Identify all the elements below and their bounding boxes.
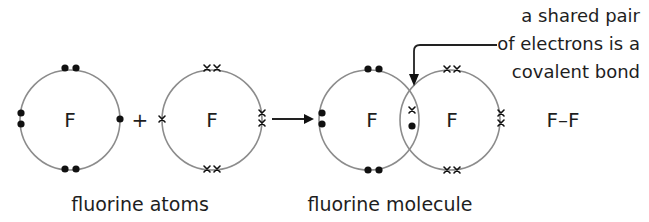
atoms-caption: fluorine atoms: [71, 193, 209, 215]
left-atom-symbol: F: [366, 108, 378, 132]
plus-sign: +: [132, 108, 149, 132]
right-atom-symbol: F: [446, 108, 458, 132]
shared-electron-pair: [408, 107, 415, 130]
covalent-bond-callout: a shared pair of electrons is a covalent…: [497, 5, 640, 82]
fluorine-atom-crosses: F: [159, 65, 265, 172]
callout-line-3: covalent bond: [512, 61, 640, 82]
fluorine-atom-dots: F: [17, 64, 123, 172]
structural-formula: F–F: [546, 108, 579, 132]
molecule-caption: fluorine molecule: [307, 193, 472, 215]
atom-symbol: F: [206, 108, 218, 132]
fluorine-molecule: F F: [318, 65, 504, 173]
reaction-arrow-icon: [272, 114, 314, 124]
callout-line-2: of electrons is a: [497, 33, 640, 54]
fluorine-covalent-bond-diagram: F + F: [0, 0, 649, 222]
callout-line-1: a shared pair: [521, 5, 640, 26]
callout-pointer-arrow-icon: [409, 45, 497, 86]
atom-symbol: F: [64, 108, 76, 132]
